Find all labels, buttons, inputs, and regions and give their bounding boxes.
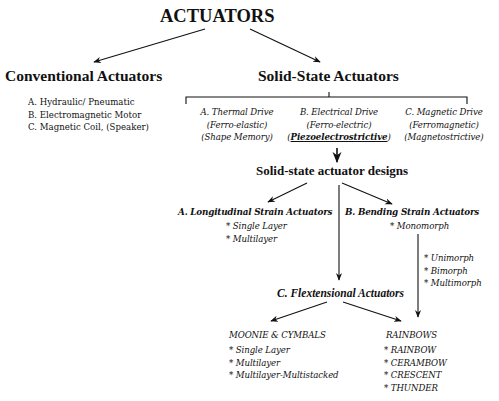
- arrow-to-conventional: [94, 29, 205, 62]
- bending-list: * Monomorph: [390, 220, 449, 233]
- list-item: A. Hydraulic/ Pneumatic: [28, 96, 149, 109]
- solid-state-heading: Solid-State Actuators: [258, 67, 399, 85]
- arrow-to-rainbows: [343, 302, 401, 321]
- list-item: * Multilayer-Multistacked: [229, 369, 339, 382]
- drive-sub: (Ferro-electric): [284, 119, 394, 132]
- drive-magnetic: C. Magnetic Drive (Ferromagnetic) (Magne…: [392, 106, 496, 144]
- arrow-to-longitudinal: [268, 183, 307, 202]
- drive-sub: (Ferro-elastic): [188, 119, 286, 132]
- drive-sub-emph-line: (Piezoelectrostrictive): [284, 131, 394, 144]
- designs-heading: Solid-state actuator designs: [256, 163, 408, 179]
- list-item: * Multilayer: [229, 357, 339, 370]
- list-item: * RAINBOW: [384, 344, 447, 357]
- bending-heading: B. Bending Strain Actuators: [345, 207, 479, 217]
- arrow-to-solid-state: [250, 29, 320, 62]
- drive-thermal: A. Thermal Drive (Ferro-elastic) (Shape …: [188, 106, 286, 144]
- list-item: C. Magnetic Coil, (Speaker): [28, 121, 149, 134]
- drive-sub: (Magnetostrictive): [392, 131, 496, 144]
- list-item: * Single Layer: [226, 220, 287, 233]
- list-item: * Unimorph: [424, 252, 482, 265]
- list-item: * Multilayer: [226, 233, 287, 246]
- longitudinal-list: * Single Layer * Multilayer: [226, 220, 287, 245]
- conventional-heading: Conventional Actuators: [5, 67, 162, 85]
- drive-name: C. Magnetic Drive: [392, 106, 496, 119]
- conventional-list: A. Hydraulic/ Pneumatic B. Electromagnet…: [28, 96, 149, 134]
- list-item: * Monomorph: [390, 220, 449, 233]
- list-item: * Multimorph: [424, 277, 482, 290]
- moonie-heading: MOONIE & CYMBALS: [229, 330, 326, 340]
- connector-arrows: [0, 0, 499, 401]
- drive-sub: (Shape Memory): [188, 131, 286, 144]
- rainbows-list: * RAINBOW * CERAMBOW * CRESCENT * THUNDE…: [384, 344, 447, 394]
- list-item: * CRESCENT: [384, 369, 447, 382]
- diagram-title: ACTUATORS: [160, 6, 274, 27]
- drive-sub: (Ferromagnetic): [392, 119, 496, 132]
- piezo-emphasis: Piezoelectrostrictive: [291, 132, 388, 142]
- list-item: * Single Layer: [229, 344, 339, 357]
- flextensional-heading: C. Flextensional Actuators: [277, 287, 404, 299]
- moonie-list: * Single Layer * Multilayer * Multilayer…: [229, 344, 339, 382]
- drive-name: B. Electrical Drive: [284, 106, 394, 119]
- longitudinal-heading: A. Longitudinal Strain Actuators: [178, 207, 332, 217]
- drive-electrical: B. Electrical Drive (Ferro-electric) (Pi…: [284, 106, 394, 144]
- arrow-to-bending: [342, 183, 392, 204]
- arrow-to-moonie: [271, 302, 327, 321]
- drives-bracket: [186, 97, 467, 104]
- list-item: * CERAMBOW: [384, 357, 447, 370]
- list-item: * THUNDER: [384, 382, 447, 395]
- list-item: B. Electromagnetic Motor: [28, 109, 149, 122]
- rainbows-heading: RAINBOWS: [386, 330, 437, 340]
- bending-sub-list: * Unimorph * Bimorph * Multimorph: [424, 252, 482, 290]
- drive-name: A. Thermal Drive: [188, 106, 286, 119]
- list-item: * Bimorph: [424, 265, 482, 278]
